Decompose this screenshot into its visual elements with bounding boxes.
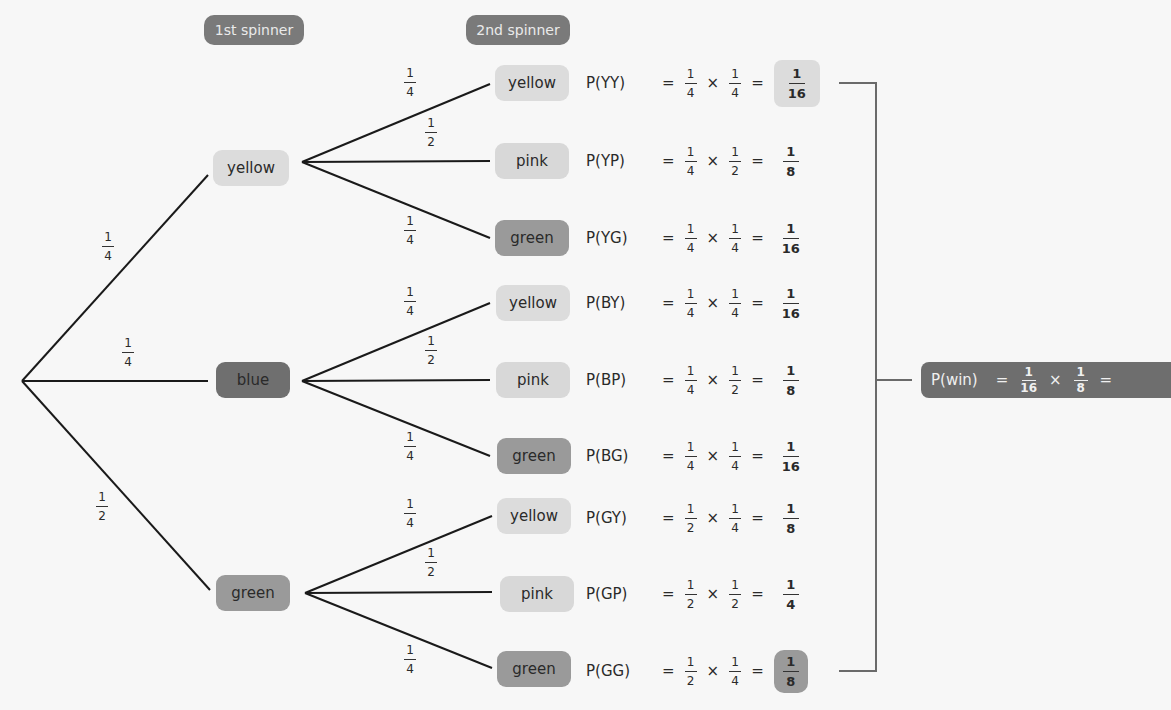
outcome-result: 18 (774, 650, 808, 693)
factor-b: 14 (729, 287, 741, 320)
prob-yellow-green: 14 (404, 214, 416, 247)
outcome-equation: P(BP)=14×12=18 (586, 360, 808, 400)
p-win-factor-b: 18 (1074, 366, 1088, 395)
prob-green-yellow: 14 (404, 497, 416, 530)
node-yellow-green: green (495, 220, 569, 256)
node-yellow-pink: pink (495, 143, 569, 179)
outcome-result: 18 (774, 498, 808, 539)
outcome-equation: P(YP)=14×12=18 (586, 141, 808, 181)
node-first-yellow: yellow (213, 150, 289, 186)
factor-b: 14 (729, 655, 741, 688)
prob-blue-yellow: 14 (404, 285, 416, 318)
second-spinner-header: 2nd spinner (466, 15, 570, 45)
node-green-yellow: yellow (497, 498, 571, 534)
outcome-result: 116 (774, 436, 808, 477)
outcome-equation: P(YY)=14×14=116 (586, 63, 820, 103)
prob-first-green: 12 (96, 490, 108, 523)
p-win-factor-a: 116 (1020, 366, 1037, 395)
outcome-result: 116 (774, 283, 808, 324)
factor-b: 14 (729, 222, 741, 255)
outcome-equation: P(GY)=12×14=18 (586, 498, 808, 538)
prob-first-yellow: 14 (102, 230, 114, 263)
outcome-result: 18 (774, 360, 808, 401)
outcome-equation: P(BY)=14×14=116 (586, 283, 808, 323)
factor-a: 14 (685, 67, 697, 100)
p-win-label: P(win) (931, 371, 978, 389)
p-win-box: P(win) = 116 × 18 = (921, 362, 1171, 398)
outcome-result: 116 (774, 60, 820, 107)
factor-b: 14 (729, 440, 741, 473)
node-first-blue: blue (216, 362, 290, 398)
factor-a: 12 (685, 655, 697, 688)
outcome-label: P(BP) (586, 371, 652, 389)
first-spinner-header: 1st spinner (204, 15, 304, 45)
factor-a: 14 (685, 440, 697, 473)
factor-b: 12 (729, 364, 741, 397)
outcome-label: P(YG) (586, 229, 652, 247)
prob-green-pink: 12 (425, 546, 437, 579)
factor-b: 12 (729, 578, 741, 611)
factor-b: 12 (729, 145, 741, 178)
outcome-label: P(BG) (586, 447, 652, 465)
node-blue-green: green (497, 438, 571, 474)
node-green-pink: pink (500, 576, 574, 612)
outcome-equation: P(GP)=12×12=14 (586, 574, 808, 614)
outcome-label: P(BY) (586, 294, 652, 312)
node-green-green: green (497, 651, 571, 687)
factor-a: 12 (685, 502, 697, 535)
factor-a: 14 (685, 287, 697, 320)
factor-b: 14 (729, 502, 741, 535)
outcome-label: P(YP) (586, 152, 652, 170)
outcome-equation: P(YG)=14×14=116 (586, 218, 808, 258)
outcome-result: 14 (774, 574, 808, 615)
prob-blue-green: 14 (404, 430, 416, 463)
outcome-label: P(GY) (586, 509, 652, 527)
outcome-label: P(GP) (586, 585, 652, 603)
node-yellow-yellow: yellow (495, 65, 569, 101)
factor-a: 14 (685, 222, 697, 255)
factor-a: 12 (685, 578, 697, 611)
node-blue-yellow: yellow (496, 285, 570, 321)
node-first-green: green (216, 575, 290, 611)
prob-yellow-pink: 12 (425, 116, 437, 149)
outcome-result: 18 (774, 141, 808, 182)
node-blue-pink: pink (496, 362, 570, 398)
factor-a: 14 (685, 145, 697, 178)
factor-a: 14 (685, 364, 697, 397)
outcome-result: 116 (774, 218, 808, 259)
prob-first-blue: 14 (122, 336, 134, 369)
prob-blue-pink: 12 (425, 334, 437, 367)
outcome-equation: P(BG)=14×14=116 (586, 436, 808, 476)
outcome-label: P(GG) (586, 662, 652, 680)
prob-yellow-yellow: 14 (404, 66, 416, 99)
outcome-label: P(YY) (586, 74, 652, 92)
prob-green-green: 14 (404, 643, 416, 676)
outcome-equation: P(GG)=12×14=18 (586, 651, 808, 691)
factor-b: 14 (729, 67, 741, 100)
